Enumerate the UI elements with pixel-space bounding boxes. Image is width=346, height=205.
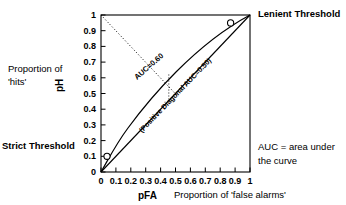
y-axis-ticks: [101, 15, 106, 172]
ytick-label: 0.9: [74, 26, 96, 36]
ytick-label: 0.1: [74, 151, 96, 161]
roc-curve-label: AUC=0.60: [132, 51, 165, 81]
ytick-label: 1: [74, 10, 96, 20]
xtick-label: 0.6: [184, 176, 197, 186]
roc-figure-page: AUC=0.60 (Positive Diagonal AUC=0.50) 0 …: [0, 0, 346, 205]
x-axis-label: pFA: [138, 190, 157, 202]
xtick-label: 0.1: [110, 176, 123, 186]
xtick-label: 0.9: [229, 176, 242, 186]
ytick-label: 0.6: [74, 73, 96, 83]
x-axis-ticks: [101, 168, 250, 173]
xtick-label: 0.3: [139, 176, 152, 186]
lenient-threshold-label: Lenient Threshold: [258, 9, 340, 20]
y-axis-label: pH: [54, 79, 66, 92]
ytick-label: 0.5: [74, 89, 96, 99]
strict-threshold-label: Strict Threshold: [2, 141, 75, 152]
ytick-label: 0.8: [74, 41, 96, 51]
ytick-label: 0.3: [74, 120, 96, 130]
ytick-label: 0.7: [74, 57, 96, 67]
negative-diagonal-dotted: [101, 15, 178, 97]
x-axis-description: Proportion of 'false alarms': [174, 190, 286, 201]
ytick-label: 0.4: [74, 104, 96, 114]
xtick-label: 0: [98, 176, 103, 186]
lenient-threshold-point: [228, 20, 234, 26]
xtick-label: 0.4: [154, 176, 167, 186]
xtick-label: 0.8: [214, 176, 227, 186]
auc-definition-label: AUC = area under the curve: [258, 140, 344, 168]
xtick-label: 1: [247, 176, 252, 186]
xtick-label: 0.7: [199, 176, 212, 186]
ytick-label: 0: [74, 167, 96, 177]
strict-threshold-point: [104, 153, 110, 159]
xtick-label: 0.5: [169, 176, 182, 186]
ytick-label: 0.2: [74, 136, 96, 146]
xtick-label: 0.2: [125, 176, 138, 186]
roc-plot-svg: AUC=0.60 (Positive Diagonal AUC=0.50): [0, 0, 346, 205]
